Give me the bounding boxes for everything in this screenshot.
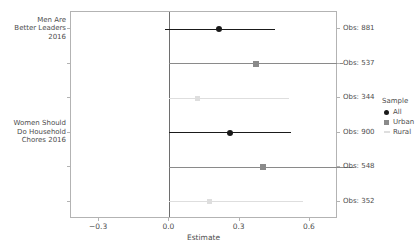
x-axis-tick bbox=[98, 218, 99, 221]
observation-label: Obs: 881 bbox=[343, 24, 375, 32]
observation-label: Obs: 352 bbox=[343, 197, 375, 205]
legend-item-all[interactable]: All bbox=[382, 107, 414, 117]
confidence-interval-bar bbox=[169, 201, 303, 202]
estimate-marker bbox=[216, 26, 222, 32]
legend: Sample AllUrbanRural bbox=[382, 97, 414, 137]
y-axis-group-label-line: Do Household bbox=[0, 128, 66, 137]
y-axis-group-label: Men AreBetter Leaders2016 bbox=[0, 16, 66, 42]
legend-item-urban[interactable]: Urban bbox=[382, 117, 414, 127]
y-axis-group-label-line: Chores 2016 bbox=[0, 136, 66, 145]
y-axis-group-label-line: Women Should bbox=[0, 119, 66, 128]
observation-tick bbox=[337, 28, 340, 29]
observation-label: Obs: 548 bbox=[343, 162, 375, 170]
legend-item-label: Urban bbox=[393, 118, 414, 127]
y-axis-group-label-line: 2016 bbox=[0, 33, 66, 42]
legend-items: AllUrbanRural bbox=[382, 107, 414, 137]
estimate-marker bbox=[260, 164, 266, 170]
x-axis-tick bbox=[239, 218, 240, 221]
plot-area bbox=[71, 12, 336, 217]
zero-reference-line bbox=[169, 12, 170, 217]
x-axis-title: Estimate bbox=[70, 233, 337, 242]
estimate-marker bbox=[207, 199, 212, 204]
x-axis-tick-label: 0.6 bbox=[303, 222, 315, 231]
x-axis-tick-label: −0.3 bbox=[89, 222, 107, 231]
estimate-marker bbox=[253, 61, 259, 67]
legend-key-icon bbox=[382, 108, 391, 117]
y-axis-group-label-line: Better Leaders bbox=[0, 24, 66, 33]
legend-item-label: All bbox=[393, 108, 402, 117]
plot-panel bbox=[70, 11, 337, 218]
legend-key-icon bbox=[382, 118, 391, 127]
y-axis-group-label-line: Men Are bbox=[0, 16, 66, 25]
x-axis-tick-label: 0.0 bbox=[162, 222, 174, 231]
observation-tick bbox=[337, 132, 340, 133]
x-axis-tick-label: 0.3 bbox=[233, 222, 245, 231]
observation-tick bbox=[337, 166, 340, 167]
estimate-marker bbox=[195, 96, 200, 101]
observation-label: Obs: 900 bbox=[343, 128, 375, 136]
legend-title: Sample bbox=[382, 97, 414, 105]
observation-tick bbox=[337, 201, 340, 202]
x-axis-tick bbox=[168, 218, 169, 221]
estimate-marker bbox=[227, 130, 233, 136]
forest-plot-chart: Men AreBetter Leaders2016Women ShouldDo … bbox=[0, 0, 418, 250]
chart-title bbox=[0, 0, 418, 1]
observation-label: Obs: 344 bbox=[343, 93, 375, 101]
legend-item-label: Rural bbox=[393, 128, 411, 137]
observation-label: Obs: 537 bbox=[343, 59, 375, 67]
x-axis-tick bbox=[309, 218, 310, 221]
observation-tick bbox=[337, 63, 340, 64]
legend-item-rural[interactable]: Rural bbox=[382, 127, 414, 137]
observation-tick bbox=[337, 97, 340, 98]
confidence-interval-bar bbox=[169, 98, 288, 99]
y-axis-group-label: Women ShouldDo HouseholdChores 2016 bbox=[0, 119, 66, 145]
legend-key-icon bbox=[382, 128, 391, 137]
